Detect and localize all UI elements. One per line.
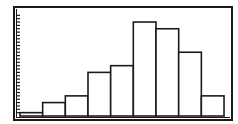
histogram-bar <box>156 29 179 116</box>
histogram-bar <box>65 96 88 116</box>
histogram-bar <box>43 103 66 116</box>
histogram-plot <box>17 9 230 117</box>
histogram-bar <box>111 66 134 116</box>
calculator-graph-screen <box>13 6 233 121</box>
histogram-bar <box>88 72 111 116</box>
histogram-bar <box>179 52 202 116</box>
histogram-bar <box>133 22 156 116</box>
histogram-bar <box>201 96 224 116</box>
histogram-bar <box>20 113 43 116</box>
plot-area <box>16 9 230 118</box>
